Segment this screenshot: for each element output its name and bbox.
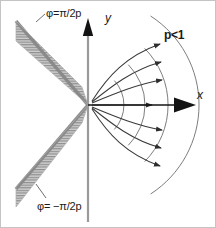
wedge-upper-arm	[16, 21, 88, 105]
axis-x-arrowhead	[174, 98, 196, 113]
leader-line-phi-top	[36, 14, 45, 22]
field-line-5	[92, 107, 162, 130]
axis-y-arrowhead	[83, 18, 93, 36]
axis-x	[88, 98, 196, 113]
field-line-3	[92, 80, 162, 103]
wedge-upper-inner-edge	[16, 21, 88, 105]
label-phi-negative: φ= −π/2p	[37, 201, 81, 212]
field-line-1	[92, 44, 160, 101]
label-phi-positive: φ=π/2p	[46, 8, 81, 19]
wedge-lower-fill	[16, 105, 88, 207]
axis-y	[83, 18, 93, 222]
label-axis-x: x	[197, 89, 203, 101]
label-axis-y: y	[105, 12, 111, 24]
wedge-lower-arm	[16, 105, 88, 207]
wedge-field-diagram: φ=π/2p φ= −π/2p p<1 x y	[0, 0, 216, 228]
leader-line-phi-bottom	[36, 184, 46, 198]
label-parameter-p: p<1	[164, 29, 184, 41]
field-line-7	[92, 109, 160, 166]
